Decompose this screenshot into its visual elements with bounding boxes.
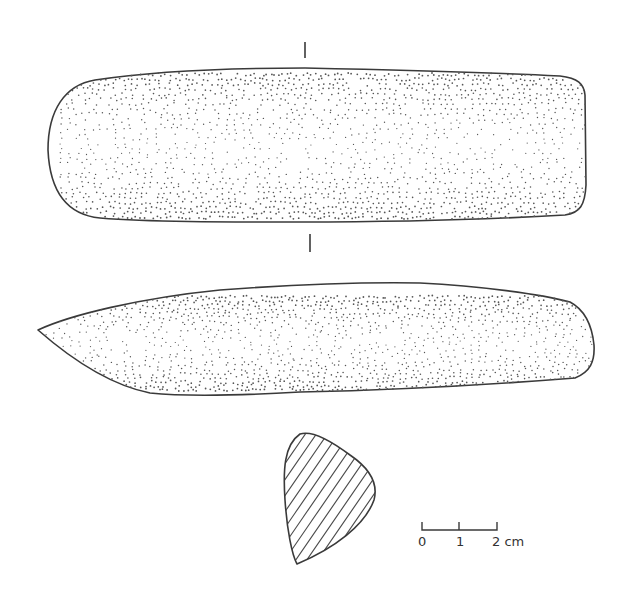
stipple-dot	[413, 374, 415, 376]
stipple-dot	[313, 114, 314, 115]
stipple-dot	[454, 216, 456, 218]
stipple-dot	[119, 78, 121, 80]
stipple-dot	[279, 380, 281, 382]
stipple-dot	[253, 300, 255, 302]
stipple-dot	[297, 377, 299, 379]
stipple-dot	[317, 208, 319, 210]
stipple-dot	[575, 93, 577, 95]
stipple-dot	[121, 153, 122, 154]
stipple-dot	[329, 357, 330, 358]
stipple-dot	[168, 377, 170, 379]
stipple-dot	[437, 348, 438, 349]
stipple-dot	[213, 142, 214, 143]
stipple-dot	[385, 325, 386, 326]
stipple-dot	[98, 356, 99, 357]
stipple-dot	[412, 134, 413, 135]
stipple-dot	[433, 103, 435, 105]
stipple-dot	[281, 153, 282, 154]
stipple-dot	[425, 124, 426, 125]
stipple-dot	[192, 79, 194, 81]
stipple-dot	[535, 361, 536, 362]
stipple-dot	[397, 202, 399, 204]
stipple-dot	[412, 197, 414, 199]
stipple-dot	[124, 352, 125, 353]
stipple-dot	[447, 137, 448, 138]
stipple-dot	[540, 177, 541, 178]
stipple-dot	[404, 353, 405, 354]
stipple-dot	[300, 198, 302, 200]
stipple-dot	[100, 97, 102, 99]
stipple-dot	[182, 201, 184, 203]
stipple-dot	[269, 346, 270, 347]
stipple-dot	[535, 352, 536, 353]
stipple-dot	[128, 78, 130, 80]
stipple-dot	[427, 114, 428, 115]
stipple-dot	[340, 346, 341, 347]
stipple-dot	[259, 82, 261, 84]
stipple-dot	[183, 313, 185, 315]
stipple-dot	[372, 97, 374, 99]
stipple-dot	[376, 79, 378, 81]
stipple-dot	[542, 153, 543, 154]
stipple-dot	[458, 78, 460, 80]
stipple-dot	[288, 82, 290, 84]
stipple-dot	[316, 181, 318, 183]
stipple-dot	[151, 377, 153, 379]
stipple-dot	[356, 110, 358, 112]
stipple-dot	[411, 128, 412, 129]
stipple-dot	[149, 110, 151, 112]
stipple-dot	[426, 163, 427, 164]
stipple-dot	[508, 103, 510, 105]
stipple-dot	[259, 77, 261, 79]
stipple-dot	[455, 74, 457, 76]
stipple-dot	[524, 378, 526, 380]
stipple-dot	[495, 103, 497, 105]
stipple-dot	[282, 354, 283, 355]
stipple-dot	[328, 88, 330, 90]
stipple-dot	[175, 356, 176, 357]
stipple-dot	[119, 193, 121, 195]
stipple-dot	[442, 341, 443, 342]
stipple-dot	[68, 173, 69, 174]
stipple-dot	[162, 388, 164, 390]
stipple-dot	[114, 94, 116, 96]
stipple-dot	[45, 334, 46, 335]
stipple-dot	[243, 90, 245, 92]
stipple-dot	[226, 125, 227, 126]
stipple-dot	[320, 304, 322, 306]
stipple-dot	[208, 201, 210, 203]
stipple-dot	[205, 143, 206, 144]
stipple-dot	[452, 326, 453, 327]
stipple-dot	[178, 304, 180, 306]
stipple-dot	[206, 296, 208, 298]
stipple-dot	[325, 295, 327, 297]
stipple-dot	[276, 93, 278, 95]
stipple-dot	[170, 316, 172, 318]
stipple-dot	[316, 358, 317, 359]
stipple-dot	[233, 85, 235, 87]
stipple-dot	[277, 364, 278, 365]
stipple-dot	[501, 97, 503, 99]
stipple-dot	[421, 144, 422, 145]
stipple-dot	[590, 361, 591, 362]
stipple-dot	[245, 203, 247, 205]
stipple-dot	[115, 144, 116, 145]
stipple-dot	[305, 203, 307, 205]
stipple-dot	[342, 78, 344, 80]
stipple-dot	[509, 122, 510, 123]
stipple-dot	[206, 373, 208, 375]
stipple-dot	[362, 142, 363, 143]
stipple-dot	[269, 206, 271, 208]
stipple-dot	[68, 107, 70, 109]
stipple-dot	[409, 138, 410, 139]
stipple-dot	[299, 380, 301, 382]
stipple-dot	[376, 212, 378, 214]
stipple-dot	[458, 308, 460, 310]
stipple-dot	[441, 77, 443, 79]
stipple-dot	[293, 309, 295, 311]
stipple-dot	[319, 210, 321, 212]
stipple-dot	[357, 308, 359, 310]
stipple-dot	[555, 336, 556, 337]
stipple-dot	[506, 364, 507, 365]
stipple-dot	[323, 207, 325, 209]
